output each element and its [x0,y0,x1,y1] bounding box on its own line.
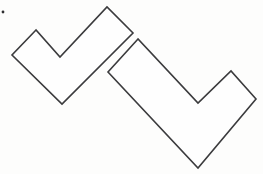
left-checkmark-shape [12,7,133,104]
figure-canvas: Two rotated checkmark polygons Line draw… [0,0,263,174]
corner-speck-icon [2,11,5,14]
shapes-drawing [0,0,263,174]
right-checkmark-shape [108,39,256,168]
